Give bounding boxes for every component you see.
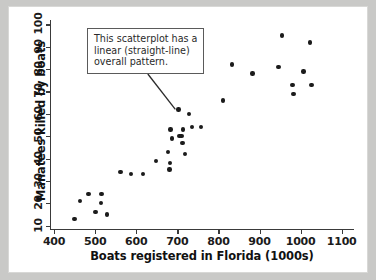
y-axis-tick [46, 24, 50, 25]
data-point [280, 33, 284, 37]
x-axis-tick [301, 230, 302, 234]
data-point [72, 217, 76, 221]
data-point [141, 172, 145, 176]
x-axis-tick-label: 1000 [279, 235, 323, 248]
data-point [276, 65, 280, 69]
data-point [290, 83, 294, 87]
data-point [291, 92, 295, 96]
data-point [93, 210, 97, 214]
x-axis-title: Boats registered in Florida (1000s) [50, 249, 354, 263]
y-axis-tick [46, 226, 50, 227]
x-axis-tick-label: 400 [32, 235, 76, 248]
annotation-callout: This scatterplot has a linear (straight-… [87, 28, 204, 74]
data-point [78, 199, 82, 203]
data-point [199, 125, 203, 129]
x-axis-tick [342, 230, 343, 234]
x-axis-tick-label: 500 [73, 235, 117, 248]
data-point [309, 83, 313, 87]
x-axis-tick [136, 230, 137, 234]
data-point [179, 134, 183, 138]
data-point [99, 201, 103, 205]
x-axis-tick-label: 900 [238, 235, 282, 248]
data-point [250, 71, 254, 75]
data-point [129, 172, 133, 176]
data-point [190, 125, 194, 129]
figure-panel: 4005006007008009001000110010203040506070… [9, 7, 367, 272]
data-point [167, 167, 171, 171]
data-point [176, 107, 180, 111]
x-axis-tick [54, 230, 55, 234]
data-point [168, 127, 172, 131]
data-point [230, 62, 234, 66]
data-point [301, 69, 305, 73]
data-point [99, 192, 103, 196]
data-point [105, 212, 109, 216]
data-point [308, 40, 312, 44]
x-axis-tick-label: 1100 [320, 235, 364, 248]
y-axis-title: Manatees killed by boats [34, 31, 48, 211]
x-axis-tick-label: 700 [155, 235, 199, 248]
x-axis-tick [218, 230, 219, 234]
data-point [181, 127, 185, 131]
x-axis-tick [95, 230, 96, 234]
data-point [170, 136, 174, 140]
data-point [166, 150, 170, 154]
x-axis-tick-label: 800 [196, 235, 240, 248]
annotation-line-3: overall pattern. [94, 56, 198, 68]
annotation-line-2: linear (straight-line) [94, 45, 198, 57]
data-point [221, 98, 225, 102]
data-point [154, 159, 158, 163]
data-point [180, 141, 184, 145]
x-axis-tick [260, 230, 261, 234]
data-point [118, 170, 122, 174]
data-point [187, 112, 191, 116]
data-point [86, 192, 90, 196]
data-point [168, 161, 172, 165]
data-point [183, 152, 187, 156]
annotation-line-1: This scatterplot has a [94, 33, 198, 45]
x-axis-tick [177, 230, 178, 234]
y-axis-tick-label: 10 [32, 214, 45, 236]
x-axis-tick-label: 600 [114, 235, 158, 248]
